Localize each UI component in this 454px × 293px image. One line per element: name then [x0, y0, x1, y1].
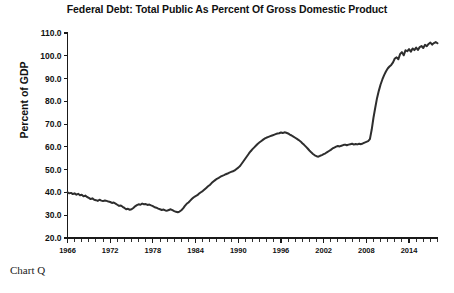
- x-tick-label: 1972: [102, 246, 119, 255]
- y-axis-ticks: 110.0100.090.080.070.060.050.040.030.020…: [40, 28, 67, 243]
- y-tick-label: 110.0: [41, 28, 62, 38]
- x-tick-label: 1990: [230, 246, 247, 255]
- y-tick-label: 90.0: [45, 74, 62, 84]
- y-tick-label: 70.0: [45, 119, 62, 129]
- x-axis-ticks: 196619721978198419901996200220082014: [59, 238, 437, 255]
- x-tick-label: 2014: [401, 246, 419, 255]
- y-tick-label: 60.0: [45, 142, 62, 152]
- x-tick-label: 1978: [145, 246, 162, 255]
- y-tick-label: 80.0: [45, 96, 62, 106]
- y-tick-label: 20.0: [45, 233, 62, 243]
- data-series-line: [68, 42, 438, 212]
- plot-area: 110.0100.090.080.070.060.050.040.030.020…: [0, 0, 454, 293]
- y-tick-label: 40.0: [45, 187, 62, 197]
- x-tick-label: 1984: [187, 246, 205, 255]
- y-tick-label: 100.0: [40, 51, 62, 61]
- x-tick-label: 2008: [358, 246, 375, 255]
- x-tick-label: 2002: [315, 246, 332, 255]
- y-tick-label: 30.0: [45, 210, 62, 220]
- chart-container: Federal Debt: Total Public As Percent Of…: [0, 0, 454, 293]
- x-tick-label: 1996: [273, 246, 290, 255]
- y-tick-label: 50.0: [45, 165, 62, 175]
- chart-caption: Chart Q: [10, 264, 45, 276]
- x-tick-label: 1966: [59, 246, 76, 255]
